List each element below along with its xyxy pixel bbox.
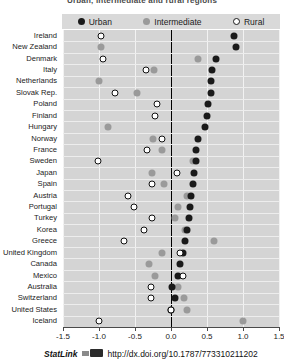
data-point-rural (124, 192, 131, 199)
data-point-urban (193, 158, 200, 165)
category-label: Turkey (0, 214, 57, 222)
category-label: Austria (0, 192, 57, 200)
gridline-y (63, 304, 279, 305)
x-tick-mark (99, 327, 100, 331)
gridline-y (63, 258, 279, 259)
category-label: Canada (0, 260, 57, 268)
legend-item-rural: Rural (233, 17, 264, 27)
data-point-intermediate (98, 44, 105, 51)
legend-item-urban: Urban (78, 17, 112, 27)
gridline-y (63, 64, 279, 65)
x-tick-label: -0.5 (128, 332, 142, 341)
x-tick-mark (63, 327, 64, 331)
x-tick-label: -1.0 (92, 332, 106, 341)
statlink-row: StatLink http://dx.doi.org/10.1787/77331… (0, 346, 284, 361)
category-label: Iceland (0, 317, 57, 325)
gridline-y (63, 316, 279, 317)
data-point-intermediate (146, 261, 153, 268)
data-point-rural (147, 284, 154, 291)
data-point-rural (148, 215, 155, 222)
data-point-urban (186, 215, 193, 222)
gridline-y (63, 133, 279, 134)
data-point-rural (180, 272, 187, 279)
x-tick-label: -1.5 (56, 332, 70, 341)
category-label: Netherlands (0, 77, 57, 85)
x-tick-label: 0.5 (201, 332, 212, 341)
data-point-rural (148, 181, 155, 188)
data-point-urban (230, 32, 237, 39)
legend-item-intermediate: Intermediate (143, 17, 201, 27)
data-point-urban (193, 146, 200, 153)
data-point-rural (144, 146, 151, 153)
data-point-urban (204, 112, 211, 119)
chart-plot-area: IrelandNew ZealandDenmarkItalyNetherland… (0, 30, 284, 327)
data-point-intermediate (160, 181, 167, 188)
gridline-y (63, 179, 279, 180)
gridline-y (63, 99, 279, 100)
urban-marker-icon (78, 18, 85, 25)
data-point-intermediate (211, 238, 218, 245)
x-tick-label: 0.0 (165, 332, 176, 341)
legend-label-rural: Rural (244, 17, 264, 27)
data-point-intermediate (194, 55, 201, 62)
intermediate-marker-icon (143, 18, 150, 25)
category-label: Mexico (0, 272, 57, 280)
data-point-rural (173, 169, 180, 176)
category-label: Slovak Rep. (0, 89, 57, 97)
data-point-intermediate (105, 124, 112, 131)
statlink-label: StatLink (44, 349, 78, 359)
gridline-y (63, 281, 279, 282)
category-label: Finland (0, 112, 57, 120)
data-point-urban (205, 101, 212, 108)
data-point-intermediate (240, 318, 247, 325)
data-point-intermediate (158, 146, 165, 153)
category-label: Australia (0, 283, 57, 291)
gridline-y (63, 236, 279, 237)
data-point-rural (99, 55, 106, 62)
x-tick-mark (243, 327, 244, 331)
category-label: Japan (0, 169, 57, 177)
clipped-title-text: Urban, intermediate and rural regions (67, 0, 217, 5)
data-point-intermediate (180, 295, 187, 302)
data-point-intermediate (96, 78, 103, 85)
gridline-y (63, 53, 279, 54)
data-point-urban (209, 66, 216, 73)
data-point-urban (169, 284, 176, 291)
data-point-rural (176, 249, 183, 256)
data-point-rural (140, 226, 147, 233)
data-point-urban (213, 55, 220, 62)
category-label: Portugal (0, 203, 57, 211)
data-point-intermediate (152, 272, 159, 279)
gridline-y (63, 144, 279, 145)
gridline-y (63, 121, 279, 122)
x-tick-label: 1.5 (273, 332, 284, 341)
gridline-y (63, 224, 279, 225)
data-point-intermediate (148, 169, 155, 176)
statlink-url[interactable]: http://dx.doi.org/10.1787/773310211202 (108, 349, 258, 359)
legend-label-urban: Urban (89, 17, 112, 27)
category-label: Korea (0, 226, 57, 234)
data-point-urban (201, 124, 208, 131)
category-label: Denmark (0, 55, 57, 63)
data-point-intermediate (134, 89, 141, 96)
x-tick-mark (171, 327, 172, 331)
data-point-intermediate (159, 249, 166, 256)
data-point-rural (98, 32, 105, 39)
data-point-urban (183, 226, 190, 233)
gridline-y (63, 76, 279, 77)
data-point-rural (130, 204, 137, 211)
x-tick-mark (207, 327, 208, 331)
data-point-urban (207, 78, 214, 85)
data-point-urban (187, 204, 194, 211)
category-label: Switzerland (0, 294, 57, 302)
x-tick-mark (279, 327, 280, 331)
data-point-rural (111, 89, 118, 96)
gridline-y (63, 247, 279, 248)
data-point-intermediate (183, 306, 190, 313)
category-label: United Kingdom (0, 249, 57, 257)
data-point-rural (96, 318, 103, 325)
legend-label-intermediate: Intermediate (154, 17, 201, 27)
gridline-y (63, 190, 279, 191)
scatter-plot-canvas (63, 30, 279, 327)
data-point-intermediate (171, 215, 178, 222)
